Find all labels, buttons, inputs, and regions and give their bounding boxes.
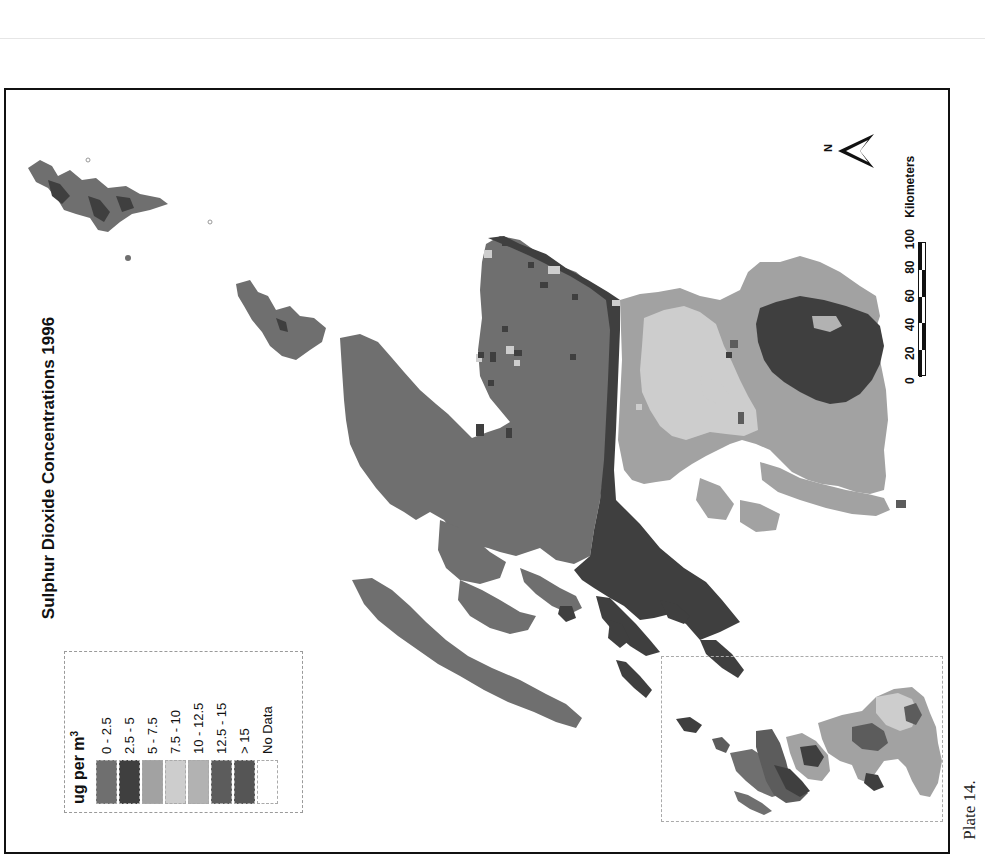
inset-map-graphic <box>662 657 944 823</box>
island-cluster-west <box>236 280 326 360</box>
legend-item: 12.5 - 15 <box>210 703 232 804</box>
scale-tick-60: 60 <box>903 289 917 302</box>
legend-swatch <box>257 760 278 804</box>
legend-swatch <box>234 760 255 804</box>
legend-swatch <box>165 760 186 804</box>
legend-item: 5 - 7.5 <box>141 717 163 804</box>
legend-swatch <box>119 760 140 804</box>
island-cluster-north <box>28 158 212 261</box>
legend: ug per m3 0 - 2.5 2.5 - 5 5 - 7.5 7.5 - … <box>64 651 303 813</box>
scale-bar-graphic <box>918 242 926 376</box>
north-arrow: N <box>824 130 880 170</box>
map-title: Sulphur Dioxide Concentrations 1996 <box>39 317 59 619</box>
scale-tick-0: 0 <box>903 377 917 384</box>
scale-tick-80: 80 <box>903 261 917 274</box>
scale-tick-20: 20 <box>903 347 917 360</box>
legend-item: 2.5 - 5 <box>118 717 140 804</box>
legend-item: 7.5 - 10 <box>164 710 186 804</box>
legend-item: 10 - 12.5 <box>187 703 209 804</box>
landmass-east <box>612 256 906 532</box>
scale-tick-40: 40 <box>903 318 917 331</box>
scale-unit: Kilometers <box>903 156 917 218</box>
legend-swatch <box>188 760 209 804</box>
legend-swatch <box>142 760 163 804</box>
inset-map <box>661 656 943 822</box>
legend-title: ug per m3 <box>69 731 88 804</box>
legend-item: > 15 <box>233 728 255 804</box>
legend-swatch <box>211 760 232 804</box>
north-arrow-icon <box>824 130 880 170</box>
legend-item: No Data <box>256 706 278 804</box>
scale-tick-100: 100 <box>903 229 917 249</box>
legend-item: 0 - 2.5 <box>95 717 117 804</box>
plate-caption: Plate 14. <box>960 780 980 840</box>
legend-swatch <box>96 760 117 804</box>
scale-labels: 0 20 40 60 80 100 Kilometers <box>903 156 917 384</box>
